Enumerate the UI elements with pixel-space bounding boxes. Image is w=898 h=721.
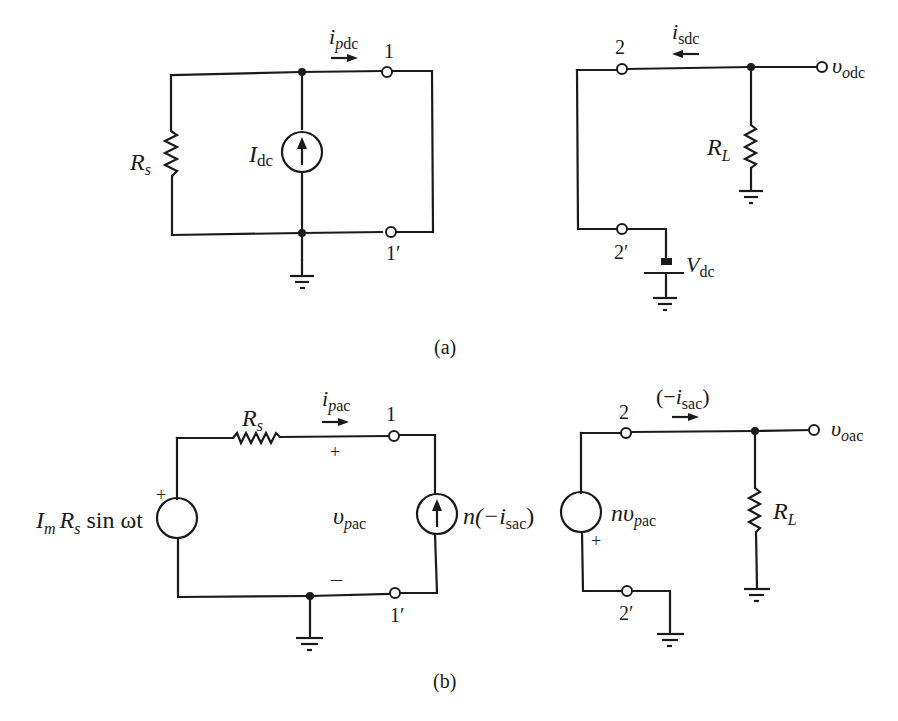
ground-icon bbox=[296, 638, 323, 650]
label-terminal-1-prime: 1′ bbox=[390, 604, 404, 626]
label-vpac-plus: + bbox=[330, 442, 340, 462]
label-vpac-minus: – bbox=[330, 566, 343, 591]
ground-icon bbox=[744, 589, 770, 601]
terminal-output-oac bbox=[809, 425, 819, 435]
label-vdc: Vdc bbox=[686, 252, 715, 280]
label-source-im-rs-sin-wt: ImRs sin ωt bbox=[35, 507, 143, 537]
circuit-a-secondary: 2 2′ isdc υodc RL Vdc bbox=[577, 19, 865, 310]
label-terminal-2: 2 bbox=[619, 401, 629, 423]
junction-dot bbox=[298, 229, 306, 237]
label-minus-isac: (−isac) bbox=[656, 384, 710, 412]
arrow-right-icon bbox=[331, 54, 358, 62]
label-terminal-1: 1 bbox=[384, 40, 394, 62]
label-vodc: υodc bbox=[832, 53, 865, 81]
caption-a: (a) bbox=[434, 336, 456, 359]
dependent-current-source-icon bbox=[417, 494, 457, 534]
terminal-1-prime bbox=[390, 588, 400, 598]
caption-b: (b) bbox=[433, 670, 456, 693]
label-source-plus: + bbox=[156, 485, 166, 505]
label-ipac: ipac bbox=[322, 386, 350, 415]
current-source-idc-icon bbox=[282, 132, 322, 172]
label-terminal-2: 2 bbox=[615, 36, 625, 58]
arrow-right-icon bbox=[672, 413, 699, 421]
label-rl: RL bbox=[772, 498, 797, 528]
label-idc: Idc bbox=[248, 141, 274, 170]
label-rs: Rs bbox=[129, 149, 151, 178]
circuit-a-primary: Rs Idc ipdc 1 1′ bbox=[129, 24, 433, 288]
transformer-equivalent-circuits-diagram: Rs Idc ipdc 1 1′ bbox=[0, 0, 898, 721]
ground-icon bbox=[290, 260, 314, 288]
terminal-output-odc bbox=[817, 62, 827, 72]
junction-dot bbox=[306, 592, 314, 600]
ground-icon bbox=[657, 634, 684, 646]
resistor-rs-icon bbox=[233, 433, 280, 443]
circuit-b-secondary: 2 2′ (−isac) nυpac + υoac RL bbox=[561, 384, 863, 646]
terminal-2-prime bbox=[617, 224, 627, 234]
label-nvpac: nυpac bbox=[611, 500, 656, 530]
terminal-2 bbox=[621, 428, 631, 438]
voltage-source-nvpac-icon bbox=[561, 492, 601, 532]
ground-icon bbox=[653, 298, 677, 310]
label-isdc: isdc bbox=[672, 19, 699, 47]
resistor-rl-icon bbox=[745, 125, 756, 168]
terminal-2 bbox=[617, 64, 627, 74]
junction-dot bbox=[747, 63, 755, 71]
terminal-1 bbox=[389, 431, 399, 441]
label-terminal-2-prime: 2′ bbox=[619, 602, 633, 624]
terminal-1 bbox=[382, 67, 392, 77]
label-rl: RL bbox=[706, 134, 731, 164]
arrow-right-icon bbox=[322, 418, 349, 426]
ground-icon bbox=[739, 191, 763, 203]
label-vpac: υpac bbox=[333, 503, 366, 533]
terminal-2-prime bbox=[622, 586, 632, 596]
resistor-rl-icon bbox=[749, 488, 760, 532]
terminal-1-prime bbox=[386, 227, 396, 237]
label-dependent-source: n(−isac) bbox=[463, 503, 534, 532]
battery-vdc-icon bbox=[644, 258, 684, 273]
circuit-b-primary: Rs ipac 1 1′ + ImRs sin ωt + υpac – n(−i… bbox=[35, 386, 534, 650]
label-source-plus: + bbox=[591, 531, 601, 551]
label-voac: υoac bbox=[831, 416, 863, 444]
resistor-rs-icon bbox=[165, 131, 177, 176]
label-ipdc: ipdc bbox=[329, 24, 358, 53]
label-terminal-2-prime: 2′ bbox=[614, 241, 628, 263]
arrow-left-icon bbox=[672, 50, 699, 58]
junction-dot bbox=[751, 427, 759, 435]
label-rs: Rs bbox=[241, 405, 263, 434]
junction-dot bbox=[298, 68, 306, 76]
label-terminal-1: 1 bbox=[386, 403, 396, 425]
label-terminal-1-prime: 1′ bbox=[386, 242, 400, 264]
